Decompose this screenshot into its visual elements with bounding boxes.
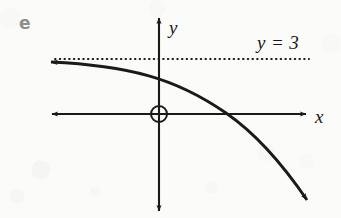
part-label-e: e [19,15,31,32]
exponential-curve [51,62,307,200]
y-axis-label: y [169,18,177,37]
figure-canvas: e y x y = 3 [0,0,341,218]
x-axis-label: x [315,107,323,126]
asymptote-equation-label: y = 3 [257,33,299,52]
